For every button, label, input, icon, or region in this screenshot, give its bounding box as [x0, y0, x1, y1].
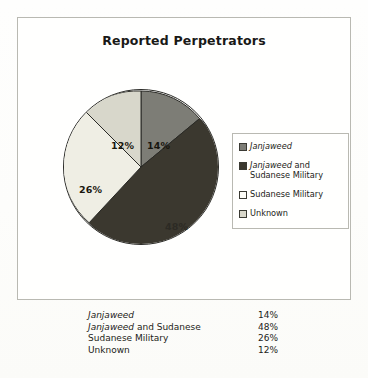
legend-swatch-icon: [239, 191, 247, 199]
legend-item-janjaweed-and-sudanese-military[interactable]: Janjaweed and Sudanese Military: [239, 160, 343, 180]
table-row-label: Sudanese Military: [88, 333, 168, 345]
table-row: Janjaweed 14%: [88, 310, 278, 322]
table-row: Sudanese Military 26%: [88, 333, 278, 345]
legend-plain-term: Unknown: [250, 208, 288, 218]
table-plain-term: Unknown: [88, 345, 130, 355]
legend-swatch-icon: [239, 143, 247, 151]
table-row-label: Unknown: [88, 345, 130, 357]
pie-svg: [64, 90, 218, 244]
table-italic-term: Janjaweed: [88, 322, 134, 332]
table-row: Janjaweed and Sudanese 48%: [88, 322, 278, 334]
legend-item-label: Sudanese Military: [250, 189, 323, 199]
table-row-value: 48%: [258, 322, 278, 334]
chart-title: Reported Perpetrators: [18, 33, 350, 48]
pie-circle: [63, 89, 219, 245]
legend-italic-term: Janjaweed: [250, 141, 292, 151]
legend-plain-term: Sudanese Military: [250, 189, 323, 199]
table-italic-term: Janjaweed: [88, 310, 134, 320]
table-plain-term: and Sudanese: [134, 322, 201, 332]
table-row-value: 12%: [258, 345, 278, 357]
legend-item-unknown[interactable]: Unknown: [239, 208, 343, 218]
table-row-value: 14%: [258, 310, 278, 322]
table-row-label: Janjaweed: [88, 310, 134, 322]
pie-label-janjaweed: 14%: [147, 140, 170, 151]
data-table: Janjaweed 14% Janjaweed and Sudanese 48%…: [88, 310, 278, 356]
legend-item-janjaweed[interactable]: Janjaweed: [239, 141, 343, 151]
legend-italic-term: Janjaweed: [250, 160, 292, 170]
legend-item-sudanese-military[interactable]: Sudanese Military: [239, 189, 343, 199]
chart-legend: Janjaweed Janjaweed and Sudanese Militar…: [232, 133, 349, 229]
legend-item-label: Unknown: [250, 208, 288, 218]
pie-label-janjaweed-and-sudanese: 48%: [165, 221, 188, 232]
legend-item-label: Janjaweed: [250, 141, 292, 151]
chart-frame: Reported Perpetrators 14% 12% 26% 48% Ja…: [17, 17, 351, 300]
pie-label-unknown: 12%: [111, 140, 134, 151]
table-row: Unknown 12%: [88, 345, 278, 357]
legend-swatch-icon: [239, 162, 247, 170]
pie-chart: 14% 12% 26% 48%: [63, 89, 219, 245]
table-row-value: 26%: [258, 333, 278, 345]
pie-label-sudanese-military: 26%: [79, 184, 102, 195]
legend-item-label: Janjaweed and Sudanese Military: [250, 160, 343, 180]
table-row-label: Janjaweed and Sudanese: [88, 322, 201, 334]
legend-swatch-icon: [239, 210, 247, 218]
table-plain-term: Sudanese Military: [88, 333, 168, 343]
